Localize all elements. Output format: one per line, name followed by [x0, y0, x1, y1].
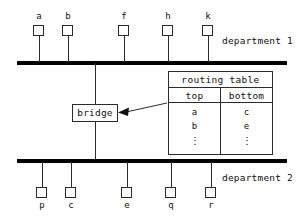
station-top-f-label: f	[114, 12, 134, 21]
station-top-a-label: a	[29, 12, 49, 21]
station-top-k-label: k	[198, 12, 218, 21]
station-bottom-q-stem	[171, 162, 172, 187]
routing-table: routing table top bottom a b ⋮ c e ⋮	[168, 71, 273, 155]
bridge-stem-upper	[95, 63, 96, 105]
department-2-label: department 2	[222, 172, 293, 183]
routing-table-cell: e	[244, 121, 249, 132]
routing-table-header-bottom: bottom	[221, 88, 272, 102]
station-bottom-p-label: p	[32, 201, 52, 210]
bus-bottom	[17, 159, 287, 163]
station-bottom-r-box[interactable]	[205, 187, 216, 198]
bridge-stem-lower	[95, 122, 96, 162]
bridge-box[interactable]: bridge	[72, 104, 118, 122]
routing-table-cell: b	[192, 121, 197, 132]
station-top-b-label: b	[58, 12, 78, 21]
station-top-k-box[interactable]	[202, 25, 213, 36]
station-top-h-label: h	[158, 12, 178, 21]
routing-table-column-bottom: c e ⋮	[221, 103, 272, 154]
routing-table-header-top: top	[169, 88, 221, 102]
routing-table-body: a b ⋮ c e ⋮	[169, 103, 272, 154]
station-bottom-q-box[interactable]	[165, 187, 176, 198]
department-1-label: department 1	[222, 35, 293, 46]
routing-table-cell: c	[244, 107, 249, 118]
bridge-label: bridge	[77, 108, 113, 118]
station-top-f-box[interactable]	[118, 25, 129, 36]
station-top-b-stem	[68, 36, 69, 62]
station-bottom-e-box[interactable]	[121, 187, 132, 198]
bus-top	[17, 61, 287, 65]
diagram-canvas: a b f h k department 1	[0, 0, 306, 223]
routing-table-title: routing table	[169, 72, 272, 88]
routing-table-header-row: top bottom	[169, 88, 272, 103]
station-top-k-stem	[208, 36, 209, 62]
routing-table-cell-ellipsis: ⋮	[242, 135, 252, 147]
station-top-f-stem	[124, 36, 125, 62]
station-top-h-box[interactable]	[162, 25, 173, 36]
routing-table-cell: a	[192, 107, 197, 118]
station-bottom-r-stem	[211, 162, 212, 187]
station-bottom-p-stem	[42, 162, 43, 187]
station-top-a-stem	[39, 36, 40, 62]
routing-table-cell-ellipsis: ⋮	[190, 135, 200, 147]
station-top-a-box[interactable]	[33, 25, 44, 36]
station-bottom-c-stem	[71, 162, 72, 187]
station-top-b-box[interactable]	[62, 25, 73, 36]
station-bottom-c-label: c	[61, 201, 81, 210]
station-bottom-e-label: e	[117, 201, 137, 210]
station-bottom-e-stem	[127, 162, 128, 187]
station-bottom-p-box[interactable]	[36, 187, 47, 198]
station-bottom-c-box[interactable]	[65, 187, 76, 198]
routing-table-column-top: a b ⋮	[169, 103, 221, 154]
station-bottom-q-label: q	[161, 201, 181, 210]
station-bottom-r-label: r	[201, 201, 221, 210]
station-top-h-stem	[168, 36, 169, 62]
